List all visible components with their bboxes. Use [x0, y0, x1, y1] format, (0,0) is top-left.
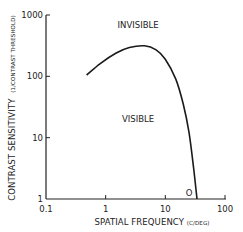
x-axis-title: SPATIAL FREQUENCY (C/DEG) — [94, 217, 209, 227]
x-tick-label: 100 — [217, 204, 233, 214]
x-ticks: 0.1110100 — [39, 195, 233, 214]
cutoff-marker-label: O — [186, 188, 193, 198]
y-axis-label: CONTRAST SENSITIVITY — [7, 98, 17, 201]
y-tick-label: 1000 — [21, 10, 43, 20]
axes — [46, 15, 226, 199]
y-axis-unit: (1/CONTRAST THRESHOLD) — [10, 15, 16, 93]
invisible-region-label: INVISIBLE — [118, 20, 159, 30]
y-tick-label: 10 — [32, 133, 43, 143]
x-tick-label: 10 — [160, 204, 171, 214]
contrast-sensitivity-chart: 1101001000 0.1110100 INVISIBLE VISIBLE O… — [0, 0, 243, 232]
x-tick-label: 0.1 — [39, 204, 53, 214]
x-axis-label: SPATIAL FREQUENCY — [94, 217, 184, 227]
y-tick-label: 1 — [38, 194, 43, 204]
x-axis-unit: (C/DEG) — [187, 220, 210, 226]
y-tick-label: 100 — [27, 71, 43, 81]
visible-region-label: VISIBLE — [122, 114, 154, 124]
y-axis-title: CONTRAST SENSITIVITY (1/CONTRAST THRESHO… — [7, 15, 17, 201]
x-tick-label: 1 — [103, 204, 108, 214]
